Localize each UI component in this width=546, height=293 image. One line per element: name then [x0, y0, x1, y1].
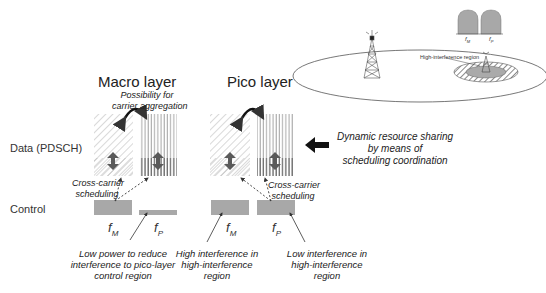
- macro-cross-carrier-label: Cross-carrier scheduling: [72, 178, 122, 200]
- annotation-line: region: [282, 270, 372, 281]
- macro-fp-pointer: [130, 213, 147, 240]
- cross-carrier-line1: Cross-carrier: [268, 180, 318, 191]
- macro-fp-annotation: Low power to reduce interference to pico…: [68, 248, 178, 281]
- inset-fm-label: fM: [465, 36, 470, 44]
- annotation-line: Low power to reduce: [68, 248, 178, 259]
- dynamic-sharing-line1: Dynamic resource sharing: [330, 131, 460, 143]
- pico-cross-carrier-label: Cross-carrier scheduling: [268, 180, 318, 202]
- pico-cross-carrier-arrows: [241, 178, 271, 201]
- pico-fp-pointer: [290, 213, 305, 242]
- carrier-note-line2: carrier aggregation: [112, 101, 182, 112]
- carrier-aggregation-note: Possibility for carrier aggregation: [112, 90, 182, 112]
- dynamic-sharing-line3: scheduling coordination: [330, 155, 460, 167]
- pico-layer-title: Pico layer: [227, 73, 293, 90]
- annotation-line: high-interference: [282, 259, 372, 270]
- pico-fm-label: fM: [226, 220, 236, 238]
- macro-layer-title: Macro layer: [98, 73, 176, 90]
- macro-tower-icon: [364, 30, 380, 78]
- pico-control-fp-block: [257, 200, 295, 215]
- pico-fp-annotation: Low interference in high-interference re…: [282, 248, 372, 281]
- cross-carrier-line1: Cross-carrier: [72, 178, 122, 189]
- macro-fm-label: fM: [108, 220, 118, 238]
- pico-fm-annotation: High interference in high-interference r…: [172, 248, 262, 281]
- pico-control-fm-block: [211, 200, 249, 215]
- cross-carrier-line2: scheduling: [268, 191, 318, 202]
- annotation-line: interference to pico-layer: [68, 259, 178, 270]
- pico-fm-pointer: [207, 213, 222, 242]
- row-label-control: Control: [10, 203, 45, 215]
- spectrum-fm-icon: [458, 10, 478, 34]
- annotation-line: Low interference in: [282, 248, 372, 259]
- inset-fp-label: fP: [489, 36, 493, 44]
- macro-control-fm-block: [94, 200, 132, 215]
- dynamic-sharing-label: Dynamic resource sharing by means of sch…: [330, 131, 460, 167]
- spectrum-fp-icon: [481, 10, 501, 34]
- dynamic-sharing-arrow-icon: [305, 137, 329, 153]
- macro-control-fp-block: [139, 210, 177, 215]
- annotation-line: high-interference: [172, 259, 262, 270]
- annotation-line: High interference in: [172, 248, 262, 259]
- row-label-data: Data (PDSCH): [10, 142, 82, 154]
- pico-fp-label: fP: [272, 220, 281, 238]
- cross-carrier-line2: scheduling: [72, 189, 122, 200]
- high-interference-region-label: High-interference region: [420, 54, 479, 60]
- annotation-line: region: [172, 270, 262, 281]
- annotation-line: control region: [68, 270, 178, 281]
- dynamic-sharing-line2: by means of: [330, 143, 460, 155]
- carrier-note-line1: Possibility for: [112, 90, 182, 101]
- macro-fp-label: fP: [154, 220, 163, 238]
